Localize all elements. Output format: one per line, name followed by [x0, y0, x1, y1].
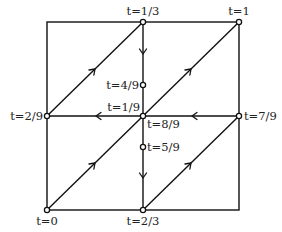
- node-center: [140, 113, 145, 118]
- label-t5-9: t=5/9: [147, 140, 180, 154]
- label-t8-9: t=8/9: [147, 117, 180, 131]
- node-t7-9: [236, 113, 241, 118]
- path-diagram: t=0 t=2/9 t=1/3 t=4/9 t=1/9 t=8/9 t=5/9 …: [0, 0, 282, 232]
- node-t5-9: [140, 144, 145, 149]
- node-t1-3: [140, 19, 145, 24]
- label-t1-9: t=1/9: [107, 100, 140, 114]
- label-t1: t=1: [228, 4, 250, 18]
- label-t4-9: t=4/9: [106, 78, 139, 92]
- node-t0: [44, 207, 49, 212]
- label-t0: t=0: [36, 214, 58, 228]
- node-t2-3: [140, 207, 145, 212]
- label-t2-9: t=2/9: [10, 109, 43, 123]
- node-t4-9: [140, 82, 145, 87]
- label-t2-3: t=2/3: [127, 214, 160, 228]
- label-t1-3: t=1/3: [127, 4, 160, 18]
- node-t1: [236, 19, 241, 24]
- node-t2-9: [44, 113, 49, 118]
- label-t7-9: t=7/9: [244, 109, 277, 123]
